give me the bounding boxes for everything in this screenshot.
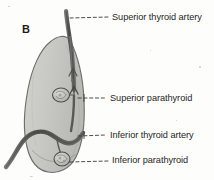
label-superior-parathyroid: Superior parathyroid [110, 94, 192, 103]
inferior-parathyroid-hilum-2 [63, 160, 66, 163]
thyroid-lobe [24, 36, 84, 172]
label-inferior-parathyroid: Inferior parathyroid [112, 156, 188, 165]
label-superior-thyroid-artery: Superior thyroid artery [112, 13, 202, 22]
leader-superior-thyroid-artery [70, 17, 108, 18]
inferior-parathyroid-outline [54, 152, 70, 166]
panel-letter: B [22, 24, 30, 35]
leader-inferior-parathyroid [70, 161, 108, 162]
inferior-parathyroid-hilum [59, 157, 62, 160]
label-inferior-thyroid-artery: Inferior thyroid artery [110, 131, 194, 140]
thyroid-anatomy-illustration [0, 0, 214, 180]
inferior-parathyroid-gland [54, 152, 70, 166]
anatomy-figure-panel-b: B Superior thyroid artery Superior parat… [0, 0, 214, 180]
superior-parathyroid-hilum [58, 93, 61, 96]
